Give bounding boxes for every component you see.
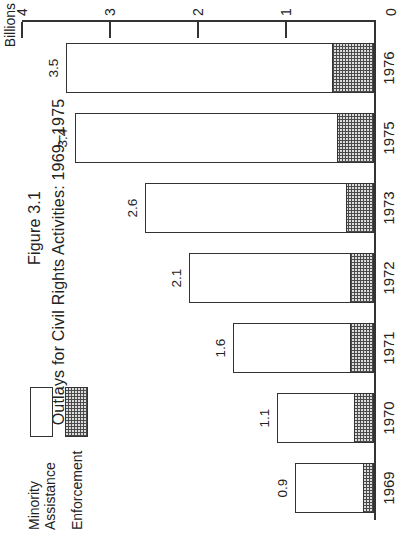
bar-value-label-1969: 0.9 <box>275 466 290 510</box>
year-label-1973: 1973 <box>380 186 397 230</box>
bar-1975-enforcement-segment <box>337 114 373 162</box>
bar-1972-enforcement-segment <box>350 254 373 302</box>
axis-tick-4 <box>21 22 23 38</box>
bar-1971 <box>233 323 374 373</box>
year-label-1976: 1976 <box>380 46 397 90</box>
bar-value-label-1976: 3.5 <box>46 46 61 90</box>
legend-label-enforcement: Enforcement <box>69 439 85 530</box>
legend-swatch-white <box>30 387 53 437</box>
bar-1971-enforcement-segment <box>350 324 373 372</box>
year-label-1971: 1971 <box>380 326 397 370</box>
bar-1972 <box>189 253 374 303</box>
bar-value-label-1972: 2.1 <box>169 256 184 300</box>
legend-label-minority-assistance: Minority Assistance <box>26 439 58 530</box>
legend-item-minority-assistance: Minority Assistance <box>30 387 53 530</box>
year-label-1972: 1972 <box>380 256 397 300</box>
bar-1973 <box>145 183 374 233</box>
bar-1975 <box>75 113 374 163</box>
axis-tick-label-1: 1 <box>278 0 294 16</box>
bar-value-label-1970: 1.1 <box>257 396 272 440</box>
bar-value-label-1973: 2.6 <box>125 186 140 230</box>
axis-tick-label-4: 4 <box>14 0 30 16</box>
axis-tick-1 <box>285 22 287 38</box>
bar-1969-enforcement-segment <box>363 464 373 512</box>
figure-number: Figure 3.1 <box>26 191 44 265</box>
axis-tick-3 <box>109 22 111 38</box>
bar-1970 <box>277 393 374 443</box>
year-label-1975: 1975 <box>380 116 397 160</box>
bar-value-label-1971: 1.6 <box>213 326 228 370</box>
legend-swatch-crosshatch <box>65 387 88 437</box>
bar-1970-enforcement-segment <box>354 394 373 442</box>
bar-1976-enforcement-segment <box>332 44 373 92</box>
legend-item-enforcement: Enforcement <box>65 387 88 530</box>
axis-tick-2 <box>197 22 199 38</box>
baseline-axis-line <box>374 20 376 520</box>
axis-tick-label-3: 3 <box>102 0 118 16</box>
rotated-figure-stage: Figure 3.1 Outlays for Civil Rights Acti… <box>0 0 414 536</box>
bar-value-label-1975: 3.4 <box>55 116 70 160</box>
legend: Minority Assistance Enforcement <box>30 387 100 530</box>
year-label-1969: 1969 <box>380 466 397 510</box>
year-label-1970: 1970 <box>380 396 397 440</box>
axis-tick-label-0: 0 <box>383 0 399 16</box>
bar-1976 <box>66 43 374 93</box>
bar-1973-enforcement-segment <box>346 184 373 232</box>
axis-tick-label-2: 2 <box>190 0 206 16</box>
bar-1969 <box>295 463 374 513</box>
